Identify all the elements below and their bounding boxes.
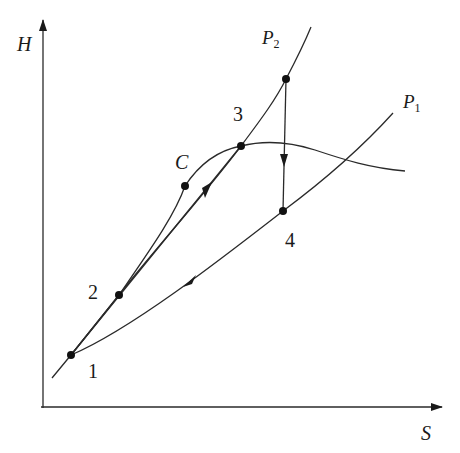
arrow-1-3-icon: [202, 182, 212, 198]
point-3-label: 3: [233, 104, 243, 124]
point-c: [181, 182, 189, 190]
isobar-p2-curve: [52, 27, 311, 378]
isobar-p2-label: P2: [262, 28, 280, 50]
point-1-label: 1: [88, 361, 98, 381]
point-top: [282, 75, 290, 83]
hs-diagram: [0, 0, 460, 453]
isobar-p1-label-main: P: [403, 91, 415, 112]
arrow-top-4-icon: [280, 154, 288, 167]
point-4: [279, 207, 287, 215]
isobar-p1-label-sub: 1: [415, 101, 421, 115]
y-axis-label: H: [17, 34, 31, 54]
isobar-p2-label-main: P: [262, 27, 274, 48]
point-4-label: 4: [285, 230, 295, 250]
isobar-p1-curve: [71, 113, 393, 355]
process-line-1-3: [71, 146, 241, 355]
point-2-label: 2: [88, 282, 98, 302]
x-axis-label: S: [421, 423, 431, 443]
point-3: [237, 142, 245, 150]
isobar-p1-label: P1: [403, 92, 421, 114]
point-2: [115, 291, 123, 299]
saturation-curve: [71, 143, 405, 355]
isobar-p2-label-sub: 2: [274, 37, 280, 51]
critical-point-label: C: [175, 152, 188, 172]
arrow-4-1-icon: [183, 275, 196, 287]
process-line-top-4: [283, 79, 286, 211]
point-1: [67, 351, 75, 359]
